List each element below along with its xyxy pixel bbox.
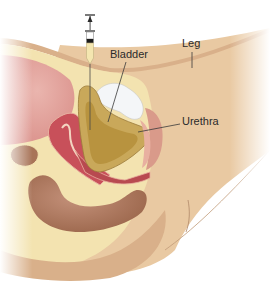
urethra-label: Urethra: [182, 116, 219, 127]
bladder-label: Bladder: [110, 49, 148, 60]
suprapubic-aspiration-illustration: Bladder Leg Urethra: [0, 0, 270, 284]
leg-label: Leg: [182, 38, 200, 49]
anatomy-drawing: [0, 0, 270, 284]
